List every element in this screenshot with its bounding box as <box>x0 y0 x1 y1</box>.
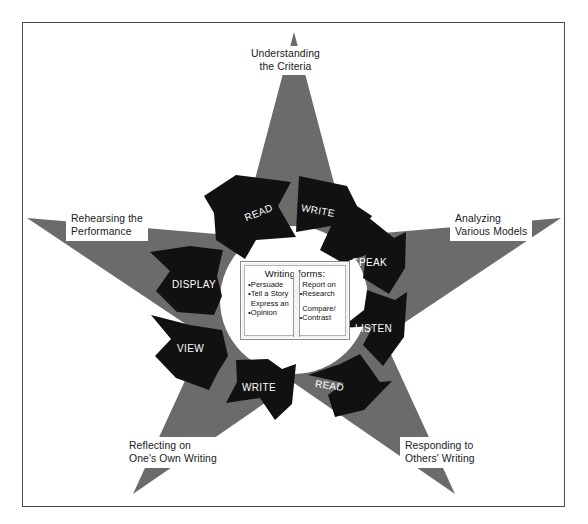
callout-understanding-the-criteria: Understanding the Criteria <box>245 46 326 75</box>
book-bullet-text: Tell a Story <box>251 289 289 298</box>
book-bullet: •Persuade <box>248 280 292 289</box>
callout-rehearsing-the-performance: Rehearsing the Performance <box>66 210 148 241</box>
book-bullet-text: Report on Research <box>302 280 335 299</box>
book-bullet: •Express an Opinion <box>248 299 292 318</box>
book-bullet: •Report on Research <box>300 280 344 299</box>
book-bullet-text: Persuade <box>251 280 284 289</box>
callout-responding-to-others-writing: Responding to Others' Writing <box>400 437 480 468</box>
center-book-columns: •Persuade •Tell a Story •Express an Opin… <box>245 280 345 335</box>
diagram-canvas: Understanding the Criteria Rehearsing th… <box>0 0 588 524</box>
book-column-right: •Report on Research •Compare/ Contrast <box>294 280 346 335</box>
book-bullet: •Tell a Story <box>248 289 292 298</box>
center-book-inner: Writing forms: •Persuade •Tell a Story •… <box>244 265 346 336</box>
book-bullet-text: Express an Opinion <box>251 299 289 318</box>
book-column-left: •Persuade •Tell a Story •Express an Opin… <box>245 280 294 335</box>
book-spine <box>293 272 300 337</box>
callout-analyzing-various-models: Analyzing Various Models <box>450 210 532 241</box>
book-bullet-text: Compare/ Contrast <box>302 304 335 323</box>
book-bullet: •Compare/ Contrast <box>300 304 344 323</box>
center-book-panel: Writing forms: •Persuade •Tell a Story •… <box>240 261 350 340</box>
callout-reflecting-on-ones-own-writing: Reflecting on One's Own Writing <box>124 437 222 468</box>
